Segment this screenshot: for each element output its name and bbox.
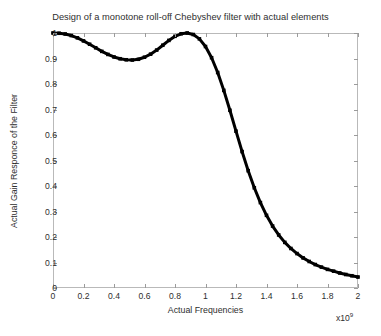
curve-data-point bbox=[332, 269, 336, 273]
y-axis-tick-mark bbox=[354, 33, 358, 34]
y-axis-tick-mark bbox=[354, 263, 358, 264]
y-axis-tick-label: 0 bbox=[52, 283, 57, 293]
x-axis-tick-mark bbox=[145, 33, 146, 37]
curve-data-point bbox=[289, 247, 293, 251]
x-axis-tick-mark bbox=[358, 33, 359, 37]
y-axis-tick-label: 0.3 bbox=[45, 207, 57, 217]
curve-markers bbox=[51, 31, 360, 279]
x-axis-tick-mark bbox=[236, 33, 237, 37]
curve-data-point bbox=[295, 252, 299, 256]
x-axis-tick-mark bbox=[297, 33, 298, 37]
curve-data-point bbox=[271, 224, 275, 228]
curve-data-point bbox=[344, 273, 348, 277]
y-axis-tick-label: 0.5 bbox=[45, 156, 57, 166]
curve-data-point bbox=[301, 256, 305, 260]
x-axis-tick-label: 2 bbox=[356, 291, 361, 301]
curve-data-point bbox=[216, 71, 220, 75]
curve-data-point bbox=[234, 129, 238, 133]
y-axis-tick-label: 1 bbox=[52, 28, 57, 38]
curve-data-point bbox=[112, 55, 116, 59]
plot-area bbox=[53, 33, 358, 288]
curve-data-point bbox=[167, 39, 171, 43]
curve-data-point bbox=[155, 48, 159, 52]
y-axis-tick-mark bbox=[354, 84, 358, 85]
curve-data-point bbox=[210, 56, 214, 60]
curve-data-point bbox=[106, 53, 110, 57]
curve-data-point bbox=[326, 268, 330, 272]
x-axis-tick-mark bbox=[175, 284, 176, 288]
y-axis-tick-mark bbox=[354, 288, 358, 289]
y-axis-tick-label: 0.2 bbox=[45, 232, 57, 242]
x-axis-tick-mark bbox=[297, 284, 298, 288]
y-axis-tick-mark bbox=[354, 186, 358, 187]
y-axis-tick-mark bbox=[354, 212, 358, 213]
curve-data-point bbox=[265, 214, 269, 218]
curve-data-point bbox=[137, 57, 141, 61]
gain-response-curve bbox=[53, 33, 358, 288]
curve-data-point bbox=[338, 271, 342, 275]
curve-data-point bbox=[222, 89, 226, 93]
y-axis-tick-label: 0.6 bbox=[45, 130, 57, 140]
curve-data-point bbox=[320, 265, 324, 269]
curve-data-point bbox=[100, 50, 104, 54]
y-axis-tick-mark bbox=[354, 237, 358, 238]
x-axis-tick-label: 0.6 bbox=[139, 291, 151, 301]
y-axis-tick-mark bbox=[354, 161, 358, 162]
x-axis-tick-mark bbox=[84, 284, 85, 288]
y-axis-tick-label: 0.4 bbox=[45, 181, 57, 191]
curve-data-point bbox=[149, 52, 153, 56]
x-axis-tick-label: 1.6 bbox=[291, 291, 303, 301]
curve-data-point bbox=[161, 43, 165, 47]
curve-data-point bbox=[70, 34, 74, 38]
x-axis-tick-mark bbox=[206, 284, 207, 288]
figure-canvas: Design of a monotone roll-off Chebyshev … bbox=[0, 0, 381, 336]
curve-data-point bbox=[253, 186, 257, 190]
x-axis-tick-mark bbox=[267, 33, 268, 37]
y-axis-tick-mark bbox=[354, 110, 358, 111]
curve-data-point bbox=[307, 260, 311, 264]
y-axis-tick-mark bbox=[354, 59, 358, 60]
y-axis-label-text: Actual Gain Responce of the Filter bbox=[9, 94, 19, 228]
curve-data-point bbox=[124, 58, 128, 62]
curve-data-point bbox=[143, 55, 147, 59]
curve-data-point bbox=[76, 36, 80, 40]
x-axis-tick-label: 0.2 bbox=[78, 291, 90, 301]
curve-data-point bbox=[356, 275, 360, 279]
curve-data-point bbox=[350, 274, 354, 278]
curve-data-point bbox=[88, 42, 92, 46]
x-axis-tick-label: 1.2 bbox=[230, 291, 242, 301]
x-axis-tick-label: 1 bbox=[203, 291, 208, 301]
x-axis-tick-mark bbox=[358, 284, 359, 288]
chart-title: Design of a monotone roll-off Chebyshev … bbox=[0, 12, 381, 22]
curve-data-point bbox=[57, 31, 61, 35]
x-axis-tick-mark bbox=[84, 33, 85, 37]
y-axis-tick-label: 0.9 bbox=[45, 54, 57, 64]
x-axis-tick-mark bbox=[114, 33, 115, 37]
curve-data-point bbox=[283, 241, 287, 245]
x-axis-tick-mark bbox=[328, 33, 329, 37]
x-axis-tick-mark bbox=[267, 284, 268, 288]
x-axis-label: Actual Frequencies bbox=[53, 305, 358, 315]
x-axis-tick-mark bbox=[175, 33, 176, 37]
x-axis-tick-mark bbox=[145, 284, 146, 288]
y-axis-label: Actual Gain Responce of the Filter bbox=[6, 33, 22, 288]
x-axis-exponent-base: x10 bbox=[336, 313, 350, 323]
curve-data-point bbox=[228, 108, 232, 112]
x-axis-tick-label: 0.4 bbox=[108, 291, 120, 301]
y-axis-tick-mark bbox=[354, 135, 358, 136]
y-axis-tick-label: 0.7 bbox=[45, 105, 57, 115]
x-axis-exponent: x109 bbox=[336, 311, 353, 323]
curve-data-point bbox=[204, 45, 208, 49]
curve-polyline bbox=[53, 33, 358, 277]
curve-data-point bbox=[240, 150, 244, 154]
curve-data-point bbox=[198, 37, 202, 41]
curve-data-point bbox=[94, 46, 98, 50]
curve-data-point bbox=[179, 32, 183, 36]
curve-data-point bbox=[192, 33, 196, 37]
curve-data-point bbox=[118, 57, 122, 61]
x-axis-tick-mark bbox=[114, 284, 115, 288]
curve-data-point bbox=[277, 233, 281, 237]
curve-data-point bbox=[63, 32, 67, 36]
y-axis-tick-label: 0.8 bbox=[45, 79, 57, 89]
x-axis-tick-label: 1.8 bbox=[322, 291, 334, 301]
